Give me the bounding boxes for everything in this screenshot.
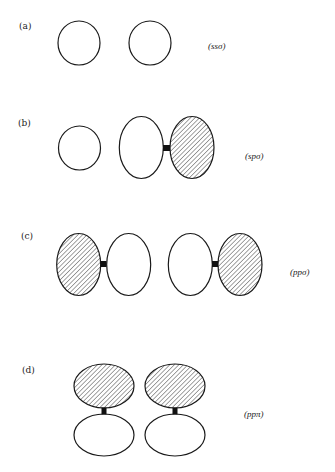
p-orbital-node: [163, 145, 170, 151]
p-orbital-1-positive-lobe: [107, 234, 151, 296]
p-orbital-2-upper-lobe: [145, 364, 205, 408]
s-orbital: [59, 126, 101, 170]
s-orbital-right: [129, 21, 171, 65]
p-orbital-2-negative-lobe: [218, 234, 262, 296]
panel-c: (c) (ppσ): [21, 231, 309, 296]
bond-label-sp-sigma: (spσ): [245, 151, 263, 161]
panel-b: (b) (spσ): [18, 117, 263, 179]
bond-label-ss-sigma: (ssσ): [208, 41, 225, 51]
p-orbital-2-lower-lobe: [145, 414, 205, 456]
bond-label-pp-pi: (ppπ): [244, 409, 264, 419]
s-orbital-left: [58, 21, 100, 65]
panel-label-c: (c): [21, 231, 33, 241]
panel-label-a: (a): [19, 21, 31, 31]
p-orbital-1-negative-lobe: [57, 234, 101, 296]
p-orbital-2-node: [212, 261, 218, 267]
p-orbital-1-upper-lobe: [74, 364, 134, 408]
panel-label-b: (b): [18, 118, 31, 128]
p-orbital-positive-lobe: [119, 117, 163, 179]
panel-label-d: (d): [22, 365, 35, 375]
p-orbital-1-lower-lobe: [74, 414, 134, 456]
orbital-overlap-diagram: (a) (ssσ) (b) (spσ) (c) (ppσ) (d) (ppπ): [0, 0, 335, 472]
panel-d: (d) (ppπ): [22, 364, 264, 456]
p-orbital-2-node: [173, 408, 178, 415]
p-orbital-negative-lobe: [170, 117, 214, 179]
p-orbital-1-node: [102, 408, 107, 415]
bond-label-pp-sigma: (ppσ): [290, 267, 309, 277]
p-orbital-2-positive-lobe: [168, 234, 212, 296]
panel-a: (a) (ssσ): [19, 21, 225, 65]
p-orbital-1-node: [101, 261, 107, 267]
